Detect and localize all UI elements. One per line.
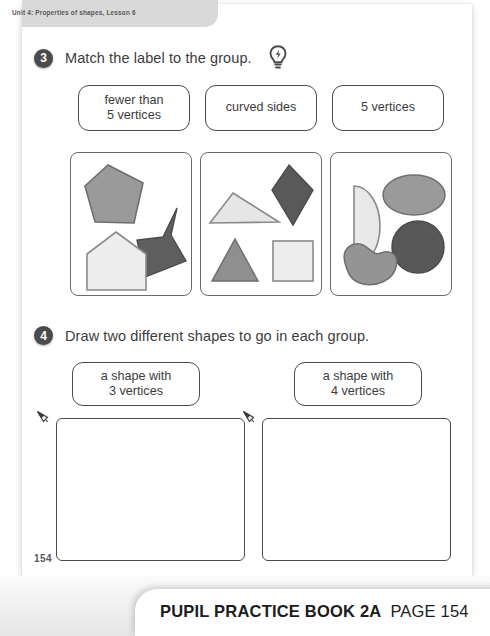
running-head-text: Unit 4: Properties of shapes, Lesson 6 [12,9,136,16]
pentagon-shape [85,165,143,223]
question-3-row: 3 Match the label to the group. [34,44,290,72]
label-line-1: a shape with [101,369,172,384]
footer-book-title: PUPIL PRACTICE BOOK 2A [160,602,381,620]
label-line-2: 3 vertices [101,384,172,399]
bean-gray-shape [344,244,396,285]
triangle-gray-shape [212,239,258,281]
page-root: Unit 4: Properties of shapes, Lesson 6 3… [0,0,490,636]
label-line-1: a shape with [323,369,394,384]
label-line-1: curved sides [226,100,297,115]
label-pill-shape-with-4-vertices[interactable]: a shape with 4 vertices [294,362,422,406]
label-line-2: 4 vertices [323,384,394,399]
label-pill-curved-sides[interactable]: curved sides [205,85,317,131]
group-box-2[interactable] [200,152,322,296]
page-number: 154 [34,553,52,564]
ellipse-gray-shape [383,175,445,215]
pencil-icon [34,408,60,434]
circle-dark-shape [392,221,444,273]
question-4-row: 4 Draw two different shapes to go in eac… [34,326,369,345]
label-line-1: 5 vertices [361,100,415,115]
drawing-area-left[interactable] [56,418,245,561]
label-line-2: 5 vertices [105,108,164,123]
question-4-prompt: Draw two different shapes to go in each … [65,328,369,344]
group-box-3[interactable] [330,152,452,296]
pencil-icon [240,408,266,434]
question-4-number: 4 [34,326,53,345]
kite-dark-shape [272,165,313,225]
footer-text: PUPIL PRACTICE BOOK 2APAGE 154 [160,602,469,621]
question-3-prompt: Match the label to the group. [65,50,252,66]
label-pill-5-vertices[interactable]: 5 vertices [332,85,444,131]
drawing-area-right[interactable] [262,418,451,561]
square-light-shape [273,241,313,281]
footer-page-label: PAGE 154 [390,602,468,620]
label-pill-fewer-than-5-vertices[interactable]: fewer than 5 vertices [78,85,190,131]
triangle-light-shape [210,193,279,223]
group-box-1[interactable] [70,152,192,296]
lightbulb-icon [266,44,290,72]
label-line-1: fewer than [105,93,164,108]
label-pill-shape-with-3-vertices[interactable]: a shape with 3 vertices [72,362,200,406]
question-3-number: 3 [34,49,53,68]
